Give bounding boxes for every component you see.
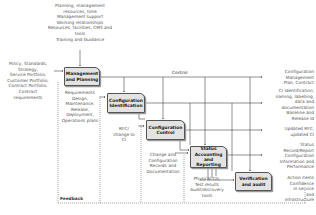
text-line: Audit/discovery (186, 187, 228, 193)
text-line: Policy, Standards, (2, 61, 54, 67)
box-label: Management and Planning (65, 71, 99, 82)
output-action-items: Action items Confidence in service and i… (262, 175, 314, 203)
verification-inputs-text: Physical CIs, Test results Audit/discove… (186, 176, 228, 198)
feedback-label: Feedback (60, 196, 83, 202)
text-line: Release Id (262, 116, 314, 122)
text-line: Performance (262, 164, 314, 170)
control-label: Control (172, 70, 188, 76)
output-updated-rfc: Updated RFC, updated CI (262, 126, 314, 137)
box-label: Configuration Identification (108, 98, 144, 109)
output-management-plan: Configuration Management Plan, Contract (262, 69, 314, 86)
control-inputs-text: RFC/ change to CI (110, 126, 138, 143)
management-planning-box: Management and Planning (64, 67, 100, 86)
status-accounting-box: Status Accounting and Reporting (190, 146, 227, 168)
text-line: tools (186, 193, 228, 199)
text-line: requirements (2, 95, 54, 101)
text-line: Plan, Contract (262, 80, 314, 86)
box-label: Status Accounting and Reporting (191, 146, 226, 168)
text-line: Requirements (60, 90, 100, 96)
text-line: Documentation (143, 169, 183, 175)
text-line: updated CI (262, 132, 314, 138)
output-ci-identification: CI Identification, naming, labelling, da… (262, 88, 314, 122)
box-label: Configuration Control (147, 125, 184, 136)
status-inputs-text: Change and Configuration Records and Doc… (143, 152, 183, 174)
text-line: CI (110, 137, 138, 143)
text-line: Training and Guidance (40, 37, 120, 43)
output-status-record: Status Record/Report Configuration Infor… (262, 142, 314, 170)
configuration-control-box: Configuration Control (146, 120, 185, 140)
left-inputs-text: Policy, Standards, Strategy, Service Por… (2, 61, 54, 100)
text-line: Operations plans (60, 118, 100, 124)
text-line: infrastructure (262, 197, 314, 203)
top-inputs-text: Planning, management resources, time Man… (40, 3, 120, 42)
identification-inputs-text: Requirements Design, Maintenance, Releas… (60, 90, 100, 124)
text-line: Maintenance, (60, 101, 100, 107)
configuration-identification-box: Configuration Identification (107, 93, 145, 113)
